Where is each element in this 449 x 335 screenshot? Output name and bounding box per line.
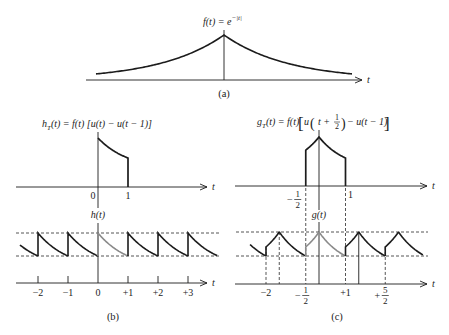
panel-c-title-frac-denominator: 2 — [335, 122, 339, 131]
panel-c-periodic-signal-periodic-copy — [385, 232, 423, 256]
panel-b-bottom-tick-label: −1 — [63, 287, 74, 298]
panel-c-signal-label: g(t) — [312, 209, 327, 221]
panel-c-title-arg: t + — [318, 116, 330, 127]
panel-b-bottom-axis-label: t — [212, 277, 215, 288]
panel-b-periodic-signal-highlighted-period — [98, 233, 128, 256]
panel-b-top: t01 — [16, 132, 215, 208]
panel-b-caption: (b) — [107, 311, 120, 323]
panel-c-periodic-signal-highlighted-period — [306, 232, 346, 256]
panel-b-top-tick-label: 0 — [91, 190, 96, 201]
panel-b-bottom: t−2−10+1+2+3 — [16, 223, 220, 298]
panel-b-periodic-signal-periodic-copy — [38, 233, 68, 256]
panel-b-bottom-tick-label: −2 — [33, 287, 44, 298]
panel-c-title: gT(t) = f(t) [ u ( t + 1 2 ) − u(t − 1) … — [257, 113, 390, 133]
panel-c-periodic-signal-periodic-copy — [250, 245, 266, 256]
panel-c-bottom-tick-numerator: 1 — [304, 285, 309, 295]
panel-b-title-rest: (t) = f(t) [u(t) − u(t − 1)] — [51, 118, 152, 130]
panel-c-title-frac-numerator: 1 — [335, 113, 339, 122]
signal-figure: f(t) = e−|t| (a) hT(t) = f(t) [u(t) − u(… — [0, 0, 449, 335]
panel-c-top-tick-label: 1 — [348, 189, 353, 200]
panel-c-top-tick-numerator: 1 — [296, 189, 301, 199]
panel-c-title-u: u — [304, 116, 309, 127]
panel-c-bottom-tick-sign: + — [374, 290, 380, 301]
panel-c-bottom: t−2−12+1+52 — [235, 188, 435, 306]
panel-b-periodic-signal-periodic-copy — [20, 245, 38, 256]
panel-c-title-rest: − u(t − 1) — [347, 116, 388, 128]
panel-c-periodic-signal-periodic-copy — [346, 232, 386, 256]
panel-c-title-lhs: gT(t) = f(t) — [257, 116, 300, 130]
panel-b-bottom-tick-label: +2 — [153, 287, 164, 298]
panel-b-bottom-tick-label: +1 — [123, 287, 134, 298]
panel-c-periodic-signal-periodic-copy — [266, 232, 306, 256]
panel-b-title: hT(t) = f(t) [u(t) − u(t − 1)] — [42, 118, 152, 132]
panel-c-bottom-tick-sign: − — [295, 290, 301, 301]
panel-b-top-tick-label: 1 — [126, 190, 131, 201]
panel-b-periodic-signal-periodic-copy — [128, 233, 158, 256]
panel-b-periodic-signal-periodic-copy — [188, 233, 217, 256]
panel-c-bottom-tick-denominator: 2 — [383, 296, 388, 306]
panel-a-axis-label: t — [367, 74, 370, 85]
panel-c-title-mid: (t) = f(t) — [266, 116, 300, 128]
panel-c-bottom-tick-label: +1 — [340, 287, 351, 298]
panel-c-bottom-tick-numerator: 5 — [383, 285, 388, 295]
panel-a-title-exponent: −|t| — [231, 14, 242, 22]
panel-c-bottom-tick-label: −2 — [261, 287, 272, 298]
panel-c-bottom-tick-denominator: 2 — [304, 296, 309, 306]
panel-c-bottom-axis-label: t — [432, 278, 435, 289]
panel-c-top-axis-label: t — [432, 180, 435, 191]
panel-c-top-tick-denominator: 2 — [296, 200, 301, 210]
panel-c-title-close-paren: ) — [341, 116, 346, 132]
panel-b-bottom-tick-label: 0 — [96, 287, 101, 298]
panel-c-truncated-pulse — [306, 137, 346, 186]
panel-a: t — [86, 30, 370, 85]
panel-b-bottom-tick-label: +3 — [183, 287, 194, 298]
panel-b-top-axis-label: t — [212, 181, 215, 192]
panel-a-caption: (a) — [218, 88, 230, 100]
panel-b-signal-label: h(t) — [91, 209, 106, 221]
panel-c-title-close-bracket: ] — [384, 114, 390, 133]
panel-b-periodic-signal-periodic-copy — [68, 233, 98, 256]
panel-c-top-tick-sign: − — [287, 194, 293, 205]
panel-c-top: t−121 — [235, 130, 435, 210]
panel-c-title-open-paren: ( — [310, 116, 315, 132]
panel-a-title-base: f(t) = e — [203, 16, 232, 28]
panel-c-caption: (c) — [331, 311, 343, 323]
panel-b-periodic-signal-periodic-copy — [158, 233, 188, 256]
panel-b-truncated-pulse — [98, 138, 128, 187]
panel-a-title: f(t) = e−|t| — [203, 14, 242, 28]
